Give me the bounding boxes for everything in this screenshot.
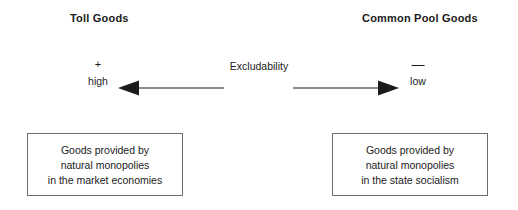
column-heading-toll-goods: Toll Goods	[70, 11, 129, 25]
pole-right: — low	[395, 58, 441, 88]
callout-right-line-1: Goods provided by	[333, 143, 487, 158]
callout-box-left: Goods provided by natural monopolies in …	[27, 133, 183, 196]
callout-box-right: Goods provided by natural monopolies in …	[332, 133, 488, 196]
callout-right-line-3: in the state socialism	[333, 173, 487, 188]
arrow-right	[293, 81, 399, 96]
excludability-diagram: Toll Goods Common Pool Goods Excludabili…	[0, 0, 518, 210]
column-heading-common-pool-goods: Common Pool Goods	[362, 11, 478, 25]
callout-left-line-2: natural monopolies	[28, 158, 182, 173]
pole-left-word: high	[75, 74, 121, 88]
pole-left-sign: +	[75, 58, 121, 71]
pole-right-sign: —	[395, 58, 441, 71]
arrow-left	[118, 81, 224, 96]
callout-left-line-1: Goods provided by	[28, 143, 182, 158]
pole-left: + high	[75, 58, 121, 88]
pole-right-word: low	[395, 74, 441, 88]
callout-right-line-2: natural monopolies	[333, 158, 487, 173]
callout-left-line-3: in the market economies	[28, 173, 182, 188]
